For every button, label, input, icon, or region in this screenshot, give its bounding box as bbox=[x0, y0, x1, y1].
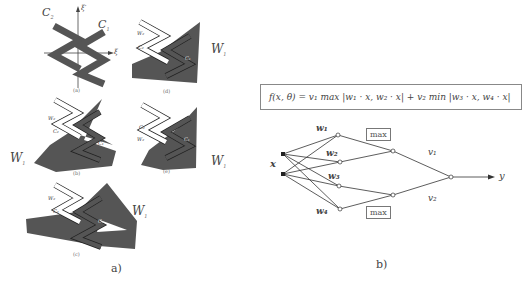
label-c1: C₁ bbox=[98, 140, 104, 146]
formula-box: f(x, θ) = v₁ max |w₁ · x, w₂ · x| + v₂ m… bbox=[260, 84, 522, 110]
output-weight-v2: v₂ bbox=[428, 193, 437, 203]
input-node bbox=[281, 152, 285, 156]
subfigure-c bbox=[26, 183, 137, 249]
label-w2: W₂ bbox=[137, 136, 144, 142]
hidden-node bbox=[338, 207, 342, 211]
label-w1: W1 bbox=[132, 204, 148, 219]
output-node bbox=[449, 175, 453, 179]
label-c2: C₂ bbox=[53, 208, 59, 214]
label-c2: C₂ bbox=[53, 128, 59, 134]
weight-label-w1: w₁ bbox=[316, 123, 328, 133]
max-pool-bottom: max bbox=[366, 206, 391, 219]
axis-horizontal-label: ξ bbox=[114, 48, 118, 56]
output-label: y bbox=[499, 170, 505, 181]
weight-label-w2: w₂ bbox=[326, 148, 338, 158]
label-w2: W₂ bbox=[137, 30, 144, 36]
label-c1: C₁ bbox=[185, 55, 191, 61]
label-w1: W1 bbox=[211, 42, 227, 57]
subfigure-b bbox=[34, 99, 116, 172]
weight-label-w4: w₄ bbox=[316, 206, 328, 216]
hidden-node bbox=[338, 160, 342, 164]
input-node bbox=[281, 172, 285, 176]
network-diagram bbox=[283, 135, 490, 209]
label-w1: W1 bbox=[10, 151, 26, 166]
weight-label-w3: w₃ bbox=[328, 171, 340, 181]
label-w1: W1 bbox=[211, 154, 227, 169]
pool-node bbox=[391, 193, 395, 197]
label-c1: C₁ bbox=[184, 136, 190, 142]
caption-d: (d) bbox=[163, 88, 170, 94]
figure-canvas bbox=[0, 0, 529, 284]
caption-b: (b) bbox=[73, 170, 80, 176]
caption-e: (e) bbox=[163, 168, 170, 174]
label-c2: C₂ bbox=[139, 124, 145, 130]
caption-c: (c) bbox=[73, 251, 80, 257]
max-pool-top: max bbox=[366, 128, 391, 141]
output-arrowhead bbox=[488, 175, 495, 180]
hidden-node bbox=[336, 133, 340, 137]
label-c2: C₂ bbox=[138, 44, 144, 50]
label-w2: W₂ bbox=[48, 195, 55, 201]
hidden-node bbox=[337, 184, 341, 188]
formula: f(x, θ) = v₁ max |w₁ · x, w₂ · x| + v₂ m… bbox=[269, 92, 511, 102]
caption-a: (a) bbox=[73, 87, 80, 93]
label-c1: C1 bbox=[98, 18, 110, 32]
label-c1: C₁ bbox=[98, 218, 104, 224]
axis-vertical-label: ξ′ bbox=[81, 4, 86, 12]
output-weight-v1: v₁ bbox=[428, 147, 437, 157]
panel-a-label: a) bbox=[111, 262, 122, 275]
panel-b-label: b) bbox=[376, 258, 387, 271]
input-label: x bbox=[270, 158, 276, 169]
pool-node bbox=[391, 149, 395, 153]
label-c2: C2 bbox=[42, 6, 54, 20]
label-w2: W₂ bbox=[48, 115, 55, 121]
